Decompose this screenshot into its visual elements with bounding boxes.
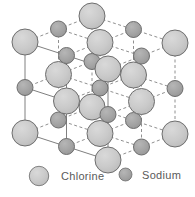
atom-sodium — [134, 139, 150, 155]
atom-chlorine — [129, 89, 155, 115]
atom-sodium — [100, 107, 116, 123]
nacl-lattice-figure: Chlorine Sodium — [0, 0, 195, 197]
atom-chlorine — [87, 121, 113, 147]
atom-chlorine — [121, 62, 147, 88]
atom-chlorine — [162, 121, 188, 147]
legend-label-chlorine: Chlorine — [61, 170, 104, 182]
atom-sodium — [51, 112, 67, 128]
sodium-swatch-icon — [118, 167, 133, 182]
atom-chlorine — [87, 30, 113, 56]
atom-chlorine — [162, 30, 188, 56]
atom-chlorine — [12, 120, 38, 146]
legend-item-sodium: Sodium — [118, 167, 181, 182]
atom-chlorine — [12, 29, 38, 55]
chlorine-swatch-icon — [28, 165, 50, 187]
legend-item-chlorine: Chlorine — [28, 165, 104, 187]
atom-sodium — [17, 80, 33, 96]
atom-sodium — [126, 22, 142, 38]
atom-sodium — [51, 21, 67, 37]
atom-sodium — [92, 80, 108, 96]
atom-chlorine — [95, 56, 121, 82]
atom-sodium — [134, 48, 150, 64]
atom-sodium — [167, 81, 183, 97]
atom-sodium — [126, 113, 142, 129]
atom-chlorine — [79, 3, 105, 29]
legend-label-sodium: Sodium — [142, 169, 181, 181]
atom-chlorine — [46, 62, 72, 88]
atom-layer — [12, 3, 188, 173]
atom-sodium — [59, 139, 75, 155]
atom-chlorine — [54, 88, 80, 114]
legend: Chlorine Sodium — [0, 160, 195, 197]
atom-sodium — [59, 48, 75, 64]
